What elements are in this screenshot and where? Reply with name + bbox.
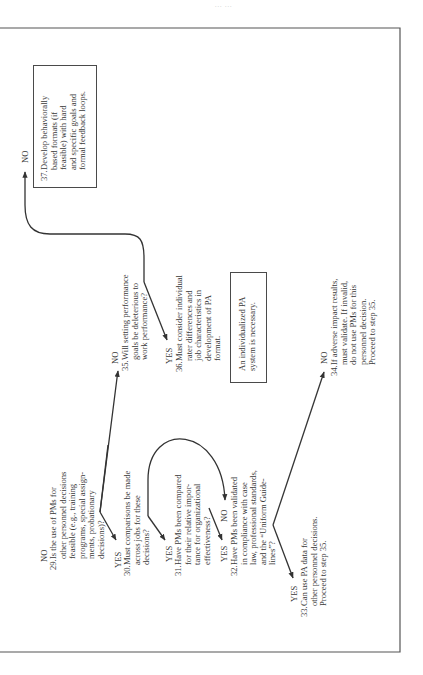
step-35-text: 35. Will setting performance goals be de…: [121, 274, 150, 371]
step-number: 37.: [40, 170, 50, 181]
step-33-text: 33. Can use PA data for other personnel …: [300, 517, 329, 618]
note-box-text: An individualized PA system is necessary…: [238, 297, 257, 371]
step-37-no-label: NO: [21, 151, 31, 163]
step-32-text: 32. Have PMs been validated in complianc…: [230, 470, 278, 576]
step-30-text: 30. Must comparisons be made across jobs…: [123, 471, 152, 576]
step-31-text: 31. Have PMs been compared for their rel…: [174, 475, 212, 576]
step-36-text: 36. Must consider individual rater diffe…: [175, 275, 223, 372]
step-37-text: 37. Develop behaviorally based formats (…: [40, 91, 88, 181]
arrow-32-to-34: [273, 372, 324, 525]
step-34-text: 34. If adverse impact results, must vali…: [330, 279, 378, 376]
step-29-text: 29. Is the use of PMs for other personne…: [49, 472, 107, 570]
arrow-35-to-37: [25, 172, 144, 282]
